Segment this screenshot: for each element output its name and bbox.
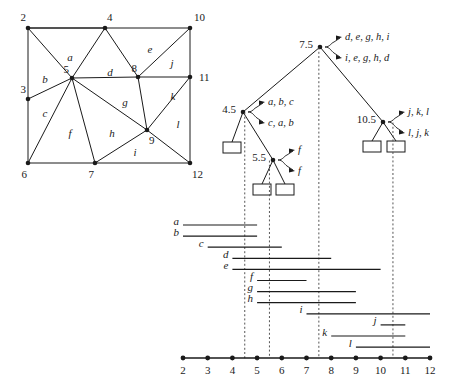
axis-tick-label-10: 10 [375, 365, 386, 376]
tree-node-set-right-mid: f [298, 166, 301, 177]
subdivision-face-label-c: c [43, 108, 48, 119]
subdivision-vertex-label-10: 10 [194, 12, 205, 23]
axis-tick-8 [329, 356, 334, 361]
axis-tick-2 [181, 356, 186, 361]
tree-node-key-root: 7.5 [299, 39, 313, 50]
subdivision-face-label-a: a [67, 52, 73, 63]
tree-node-set-left-mid: f [298, 145, 301, 156]
subdivision-vertex-label-5: 5 [64, 64, 70, 75]
axis-tick-11 [403, 356, 408, 361]
axis-tick-label-11: 11 [400, 365, 411, 376]
figure-canvas: 24103581167912abcdefghijkl7.5d, e, g, h,… [0, 0, 475, 390]
subdivision-vertex-label-3: 3 [21, 84, 27, 95]
tree-node-set-left-root: d, e, g, h, i [345, 32, 389, 43]
interval-label-e: e [224, 259, 229, 270]
tree-node-key-mid: 5.5 [252, 152, 266, 163]
subdivision-face-label-h: h [109, 128, 115, 139]
axis-tick-label-3: 3 [205, 365, 211, 376]
subdivision-vertex-label-9: 9 [149, 135, 155, 146]
subdivision-vertex-label-6: 6 [22, 169, 28, 180]
axis-tick-label-12: 12 [425, 365, 436, 376]
axis-tick-label-9: 9 [353, 365, 359, 376]
tree-node-set-left-right: j, k, l [408, 107, 429, 118]
axis-tick-12 [428, 356, 433, 361]
tree-node-set-right-right: l, j, k [408, 128, 429, 139]
subdivision-face-label-d: d [107, 67, 113, 78]
tree-node-set-right-root: i, e, g, h, d [345, 53, 389, 64]
subdivision-face-label-k: k [171, 91, 176, 102]
axis-tick-label-5: 5 [254, 365, 260, 376]
subdivision-vertex-label-7: 7 [89, 169, 95, 180]
axis-tick-3 [205, 356, 210, 361]
subdivision-face-label-i: i [133, 147, 136, 158]
interval-label-h: h [248, 293, 254, 304]
subdivision-vertex-label-4: 4 [107, 12, 113, 23]
subdivision-vertex-label-2: 2 [21, 12, 27, 23]
subdivision-face-label-e: e [148, 44, 153, 55]
interval-label-k: k [322, 326, 327, 337]
interval-label-l: l [349, 337, 352, 348]
subdivision-face-label-b: b [42, 74, 48, 85]
axis-tick-label-4: 4 [230, 365, 236, 376]
subdivision-vertex-label-11: 11 [199, 72, 210, 83]
subdivision-face-label-f: f [68, 128, 71, 139]
axis-tick-label-7: 7 [304, 365, 310, 376]
interval-label-i: i [299, 304, 302, 315]
subdivision-face-label-g: g [122, 97, 128, 108]
axis-tick-4 [230, 356, 235, 361]
tree-node-key-left: 4.5 [222, 104, 236, 115]
axis-tick-label-6: 6 [279, 365, 285, 376]
tree-node-set-right-left: c, a, b [268, 118, 294, 129]
axis-tick-5 [255, 356, 260, 361]
axis-tick-10 [378, 356, 383, 361]
interval-label-b: b [174, 226, 180, 237]
interval-label-j: j [374, 315, 377, 326]
subdivision-vertex-label-12: 12 [192, 169, 203, 180]
tree-node-set-left-left: a, b, c [268, 97, 294, 108]
axis-tick-7 [304, 356, 309, 361]
subdivision-face-label-j: j [170, 58, 173, 69]
tree-node-key-right: 10.5 [357, 114, 376, 125]
subdivision-face-label-l: l [176, 119, 179, 130]
axis-tick-label-8: 8 [328, 365, 334, 376]
axis-tick-9 [354, 356, 359, 361]
subdivision-vertex-label-8: 8 [132, 63, 138, 74]
axis-tick-label-2: 2 [180, 365, 186, 376]
interval-label-c: c [199, 237, 204, 248]
axis-tick-6 [279, 356, 284, 361]
